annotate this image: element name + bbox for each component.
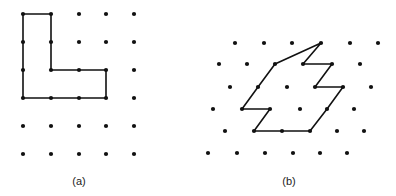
lattice-dot <box>240 107 244 111</box>
lattice-dot <box>132 152 136 156</box>
lattice-dot <box>21 68 25 72</box>
lattice-dot <box>49 152 53 156</box>
lattice-dot <box>280 129 284 133</box>
lattice-dot <box>104 12 108 16</box>
lattice-dot <box>235 151 239 155</box>
lattice-dot <box>21 12 25 16</box>
lattice-dot <box>318 151 322 155</box>
figure-b-caption: (b) <box>282 175 295 187</box>
lattice-dot <box>273 62 277 66</box>
figure-b-oblique-lattice: (b) <box>206 41 380 187</box>
lattice-dot <box>285 85 289 89</box>
lattice-dot <box>358 62 362 66</box>
lattice-dot <box>217 62 221 66</box>
lattice-dot <box>345 151 349 155</box>
figure-a-square-lattice: (a) <box>21 12 136 187</box>
lattice-dot <box>21 40 25 44</box>
lattice-dot <box>290 41 294 45</box>
lattice-dot <box>308 129 312 133</box>
lattice-dot <box>223 129 227 133</box>
lattice-dot <box>49 68 53 72</box>
figure-a-caption: (a) <box>72 175 85 187</box>
lattice-dot <box>77 40 81 44</box>
lattice-dot <box>263 151 267 155</box>
lattice-dot <box>376 41 380 45</box>
lattice-dot <box>233 41 237 45</box>
lattice-dot <box>319 41 323 45</box>
lattice-dot <box>211 107 215 111</box>
lattice-dot <box>228 85 232 89</box>
figure-b-dots <box>206 41 380 155</box>
lattice-dot <box>104 40 108 44</box>
figure-a-dots <box>21 12 136 156</box>
lattice-dot <box>245 62 249 66</box>
lattice-dot <box>77 152 81 156</box>
lattice-dot <box>206 151 210 155</box>
lattice-dot <box>132 124 136 128</box>
lattice-dot <box>104 96 108 100</box>
lattice-dot <box>21 124 25 128</box>
lattice-dot <box>104 124 108 128</box>
lattice-dot <box>325 107 329 111</box>
lattice-dot <box>21 152 25 156</box>
lattice-dot <box>49 40 53 44</box>
lattice-dot <box>352 107 356 111</box>
lattice-dot <box>77 68 81 72</box>
lattice-dot <box>291 151 295 155</box>
lattice-dot <box>21 96 25 100</box>
figure-a-l-shape-polygon <box>23 14 106 98</box>
lattice-dot <box>348 41 352 45</box>
lattice-dot <box>369 85 373 89</box>
lattice-dot <box>252 129 256 133</box>
lattice-dot <box>132 12 136 16</box>
lattice-diagram: (a) (b) <box>0 0 396 196</box>
lattice-dot <box>362 129 366 133</box>
lattice-dot <box>268 107 272 111</box>
lattice-dot <box>330 62 334 66</box>
lattice-dot <box>104 152 108 156</box>
lattice-dot <box>49 96 53 100</box>
lattice-dot <box>132 40 136 44</box>
lattice-dot <box>262 41 266 45</box>
lattice-dot <box>313 85 317 89</box>
lattice-dot <box>341 85 345 89</box>
lattice-dot <box>104 68 108 72</box>
lattice-dot <box>49 124 53 128</box>
lattice-dot <box>77 12 81 16</box>
lattice-dot <box>301 62 305 66</box>
lattice-dot <box>77 96 81 100</box>
lattice-dot <box>256 85 260 89</box>
lattice-dot <box>49 12 53 16</box>
lattice-dot <box>132 68 136 72</box>
lattice-dot <box>77 124 81 128</box>
lattice-dot <box>132 96 136 100</box>
lattice-dot <box>298 107 302 111</box>
lattice-dot <box>335 129 339 133</box>
